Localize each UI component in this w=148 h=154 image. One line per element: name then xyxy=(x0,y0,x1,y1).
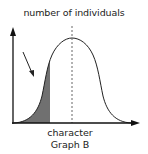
pointer-arrowhead-icon xyxy=(29,70,34,77)
graph-b-diagram: number of individuals character Graph B xyxy=(0,0,148,154)
graph-title: Graph B xyxy=(40,139,100,150)
x-axis-label: character xyxy=(40,127,100,138)
y-axis-arrowhead-icon xyxy=(10,27,16,36)
pointer-arrow xyxy=(23,52,32,73)
x-axis-arrowhead-icon xyxy=(131,120,140,126)
shaded-tail-region xyxy=(14,55,52,123)
y-axis-label: number of individuals xyxy=(0,7,148,18)
